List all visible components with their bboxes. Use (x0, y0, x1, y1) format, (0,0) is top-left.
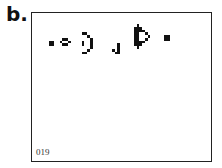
live-cell (139, 43, 142, 46)
live-cell (82, 43, 85, 46)
live-cell (84, 52, 87, 55)
live-cell (117, 52, 120, 55)
live-cell (167, 38, 170, 41)
live-cell (65, 43, 68, 46)
live-cell (68, 41, 71, 44)
live-cell (148, 35, 151, 38)
live-cell (90, 46, 93, 49)
live-cell (142, 41, 145, 44)
live-cell (145, 38, 148, 41)
panel-label: b. (6, 4, 28, 24)
generation-counter: 019 (36, 147, 50, 157)
live-cell (117, 46, 120, 49)
live-cell (137, 46, 140, 49)
live-cell (117, 43, 120, 46)
live-cell (51, 43, 54, 46)
life-board: 019 (31, 12, 212, 162)
live-cell (87, 49, 90, 52)
